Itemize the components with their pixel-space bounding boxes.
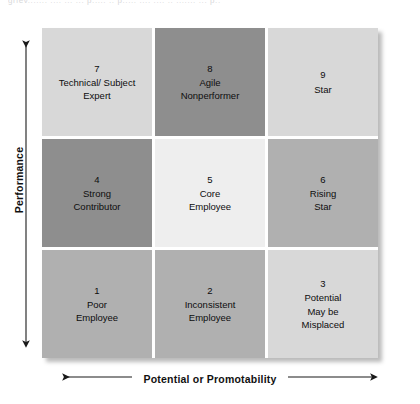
cell-number: 2: [207, 284, 212, 297]
grid-cell-6[interactable]: 6 Rising Star: [268, 139, 378, 247]
cell-number: 7: [94, 62, 99, 75]
grid-cell-8[interactable]: 8 Agile Nonperformer: [155, 28, 265, 136]
cell-number: 4: [94, 173, 99, 186]
cell-label: Core Employee: [189, 187, 231, 213]
grid-cell-1[interactable]: 1 Poor Employee: [42, 250, 152, 358]
nine-box-grid: 7 Technical/ Subject Expert 8 Agile Nonp…: [42, 28, 378, 358]
cell-label: Star: [314, 83, 331, 96]
x-axis: Potential or Promotability: [42, 366, 378, 392]
cell-label: Agile Nonperformer: [181, 76, 240, 102]
grid-cell-5[interactable]: 5 Core Employee: [155, 139, 265, 247]
grid-cell-4[interactable]: 4 Strong Contributor: [42, 139, 152, 247]
cut-off-page-text: griev....... .... ... ... p..... .. p...…: [8, 0, 412, 6]
grid-cell-9[interactable]: 9 Star: [268, 28, 378, 136]
cell-number: 9: [320, 68, 325, 81]
cell-number: 6: [320, 173, 325, 186]
cell-label: Potential May be Misplaced: [302, 291, 345, 330]
cell-label: Technical/ Subject Expert: [59, 76, 136, 102]
grid-cell-3[interactable]: 3 Potential May be Misplaced: [268, 250, 378, 358]
x-axis-label: Potential or Promotability: [132, 373, 289, 385]
cell-label: Poor Employee: [76, 298, 118, 324]
y-axis: Performance: [8, 28, 42, 360]
cell-number: 5: [207, 173, 212, 186]
cell-label: Inconsistent Employee: [185, 298, 236, 324]
cell-number: 3: [320, 277, 325, 290]
cell-number: 1: [94, 284, 99, 297]
cell-label: Strong Contributor: [74, 187, 121, 213]
grid-cell-2[interactable]: 2 Inconsistent Employee: [155, 250, 265, 358]
cell-number: 8: [207, 62, 212, 75]
cell-label: Rising Star: [310, 187, 336, 213]
grid-cell-7[interactable]: 7 Technical/ Subject Expert: [42, 28, 152, 136]
y-axis-label: Performance: [13, 120, 25, 240]
